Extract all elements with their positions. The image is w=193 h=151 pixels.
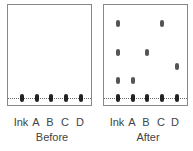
lane-label-c: C (61, 116, 69, 128)
before-title: Before (36, 131, 68, 143)
b-start-spot (145, 94, 149, 102)
after-chromatogram-panel (103, 4, 188, 106)
a-start-spot (35, 94, 39, 102)
c-spot (160, 20, 164, 27)
ink-spot-low (116, 77, 120, 84)
d-start-spot (175, 94, 179, 102)
lane-label-d: D (171, 116, 179, 128)
b-spot (145, 49, 149, 56)
c-start-spot (64, 94, 68, 102)
lane-label-ink: Ink (14, 116, 29, 128)
d-spot (175, 63, 179, 70)
lane-label-d: D (76, 116, 84, 128)
lane-label-ink: Ink (110, 116, 125, 128)
lane-label-a: A (128, 116, 135, 128)
ink-spot-mid (116, 49, 120, 56)
ink-start-spot (116, 94, 120, 102)
ink-spot-high (116, 20, 120, 27)
lane-label-b: B (142, 116, 149, 128)
before-chromatogram-panel (7, 4, 92, 106)
a-start-spot (131, 94, 135, 102)
c-start-spot (160, 94, 164, 102)
after-title: After (136, 131, 159, 143)
lane-label-b: B (46, 116, 53, 128)
ink-start-spot (20, 94, 24, 102)
lane-label-c: C (157, 116, 165, 128)
d-start-spot (79, 94, 83, 102)
a-spot (131, 77, 135, 84)
b-start-spot (49, 94, 53, 102)
lane-label-a: A (32, 116, 39, 128)
